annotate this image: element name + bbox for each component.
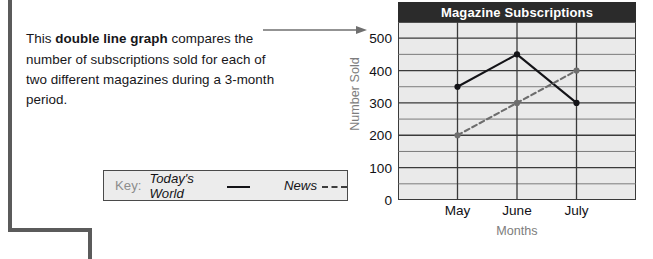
key-entry-news-label: News (284, 178, 317, 193)
chart-x-axis-ticks: MayJuneJuly (398, 203, 636, 223)
y-tick-label-100: 100 (340, 160, 392, 175)
chart-plot-svg (398, 22, 636, 200)
description-emphasis: double line graph (55, 31, 167, 46)
chart-y-axis-title: Number Sold (348, 39, 362, 149)
page-frame-left-rule (8, 0, 12, 232)
magazine-subscriptions-chart: Magazine Subscriptions 0100200300400500 … (336, 0, 653, 246)
key-legend-box: Key: Today's World News (103, 170, 348, 201)
chart-title: Magazine Subscriptions (441, 5, 593, 20)
key-entry-todays-world-label: Today's World (149, 171, 220, 201)
description-prefix: This (26, 31, 55, 46)
chart-y-axis-ticks: 0100200300400500 (336, 22, 392, 200)
chart-x-axis-title: Months (398, 224, 636, 238)
key-entry-todays-world: Today's World (149, 171, 250, 201)
page-frame-step-rule (88, 228, 92, 259)
chart-title-bar: Magazine Subscriptions (398, 2, 636, 22)
chart-gridlines-vertical (458, 22, 577, 200)
page-frame-bottom-rule (8, 228, 92, 232)
description-text: This double line graph compares the numb… (26, 29, 278, 110)
key-label: Key: (115, 178, 141, 193)
y-tick-label-0: 0 (340, 193, 392, 208)
x-tick-label-july: July (542, 203, 612, 218)
key-swatch-solid-line (227, 186, 250, 188)
